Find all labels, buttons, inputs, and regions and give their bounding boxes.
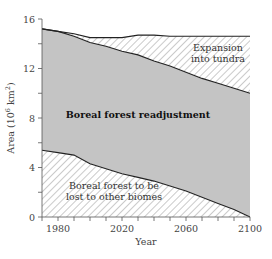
x-tick-label: 2020 xyxy=(110,223,134,234)
label-expansion-into-tundra: Expansioninto tundra xyxy=(191,42,245,64)
y-tick-label: 16 xyxy=(23,14,35,25)
y-tick-label: 0 xyxy=(29,212,35,223)
x-tick-label: 1980 xyxy=(46,223,70,234)
label-boreal-forest-lost: Boreal forest to belost to other biomes xyxy=(66,180,162,202)
x-tick-label: 2100 xyxy=(238,223,262,234)
chart: 04812161980202020602100 Expansioninto tu… xyxy=(0,0,272,259)
y-tick-label: 8 xyxy=(29,113,35,124)
x-tick-label: 2060 xyxy=(174,223,198,234)
y-axis-title: Area (106 km2) xyxy=(4,82,16,154)
y-tick-label: 12 xyxy=(23,63,35,74)
y-tick-label: 4 xyxy=(29,162,35,173)
x-axis-title: Year xyxy=(134,236,157,247)
label-boreal-forest-readjustment: Boreal forest readjustment xyxy=(66,109,211,120)
